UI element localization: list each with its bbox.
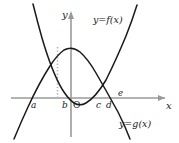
x-axis-label: x	[166, 101, 172, 111]
curve-label-g: y=g(x)	[119, 119, 151, 129]
tick-label-c: c	[96, 101, 101, 110]
curve-f-of-x	[14, 48, 130, 139]
y-axis-label: y	[62, 10, 68, 20]
y-axis	[68, 11, 74, 137]
tick-label-b: b	[62, 101, 68, 110]
point-label-e: e	[118, 89, 123, 98]
tick-label-d: d	[106, 101, 112, 110]
math-figure: x y O a b c d e y=f(x) y=g(x)	[0, 0, 179, 143]
figure-canvas	[0, 0, 179, 143]
curve-label-f: y=f(x)	[93, 15, 123, 25]
origin-label: O	[73, 101, 80, 110]
tick-label-a: a	[31, 101, 36, 110]
